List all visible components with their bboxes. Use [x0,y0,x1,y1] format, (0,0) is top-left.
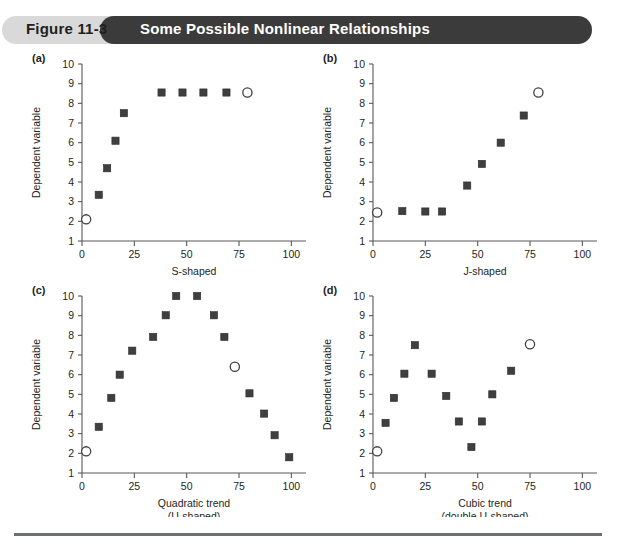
data-point-square [286,454,293,461]
y-tick-label: 1 [359,235,365,247]
data-point-square [200,89,207,96]
data-point-square [520,112,527,119]
y-tick-label: 4 [359,408,365,420]
data-point-square [428,370,435,377]
x-axis-title-line2: (U-shaped) [168,510,221,517]
data-point-square [95,191,102,198]
y-axis-title: Dependent variable [321,339,333,430]
x-tick-label: 50 [181,248,193,260]
data-point-square [401,370,408,377]
axis-lines [373,296,597,473]
y-tick-label: 2 [359,447,365,459]
y-axis-title: Dependent variable [30,107,42,198]
x-tick-label: 0 [79,248,85,260]
y-tick-label: 5 [359,156,365,168]
x-tick-label: 75 [524,480,536,492]
x-tick-label: 25 [128,480,140,492]
data-point-circle [373,447,382,456]
y-tick-label: 7 [359,117,365,129]
panel-b: (b) 123456789100255075100Dependent varia… [305,50,605,285]
x-tick-label: 50 [472,248,484,260]
data-point-square [223,89,230,96]
y-tick-label: 4 [68,176,74,188]
data-point-square [221,333,228,340]
y-tick-label: 9 [68,77,74,89]
x-tick-label: 0 [370,248,376,260]
x-tick-label: 100 [283,480,301,492]
y-tick-label: 6 [359,136,365,148]
data-point-square [261,410,268,417]
x-tick-label: 100 [574,248,592,260]
data-point-square [468,443,475,450]
panel-c: (c) 123456789100255075100Dependent varia… [14,282,314,517]
x-tick-label: 100 [574,480,592,492]
data-point-square [179,89,186,96]
data-point-square [108,394,115,401]
x-tick-label: 100 [283,248,301,260]
y-tick-label: 9 [68,309,74,321]
x-tick-label: 25 [128,248,140,260]
panel-grid: (a) 123456789100255075100Dependent varia… [0,50,620,520]
data-point-square [129,347,136,354]
y-tick-label: 8 [68,329,74,341]
x-axis-title-line2: (double U-shaped) [442,510,529,517]
scatter-plot-c: 123456789100255075100Dependent variableQ… [14,282,314,517]
data-point-square [497,139,504,146]
y-axis-title: Dependent variable [30,339,42,430]
y-axis-title: Dependent variable [321,107,333,198]
y-tick-label: 1 [68,467,74,479]
data-point-square [390,394,397,401]
y-tick-label: 9 [359,77,365,89]
x-axis-title: J-shaped [463,265,506,277]
footer-divider [14,533,602,536]
y-tick-label: 10 [353,290,365,302]
data-point-square [399,208,406,215]
data-point-square [112,137,119,144]
y-tick-label: 7 [68,349,74,361]
figure-title-label: Some Possible Nonlinear Relationships [140,20,430,37]
data-point-circle [243,88,252,97]
data-point-square [382,419,389,426]
data-point-square [210,312,217,319]
data-point-square [438,208,445,215]
data-point-square [150,333,157,340]
data-point-square [271,432,278,439]
data-point-square [443,392,450,399]
data-point-square [116,371,123,378]
x-tick-label: 75 [233,480,245,492]
data-point-square [508,367,515,374]
data-point-square [422,208,429,215]
x-tick-label: 0 [79,480,85,492]
x-tick-label: 25 [419,480,431,492]
y-tick-label: 7 [359,349,365,361]
x-axis-title: S-shaped [172,265,217,277]
data-point-circle [82,447,91,456]
y-tick-label: 10 [62,290,74,302]
data-point-square [95,423,102,430]
data-point-square [478,160,485,167]
data-point-square [246,390,253,397]
x-tick-label: 50 [472,480,484,492]
x-tick-label: 0 [370,480,376,492]
figure-number-label: Figure 11-3 [26,20,107,37]
data-point-square [455,418,462,425]
data-point-square [478,418,485,425]
x-tick-label: 50 [181,480,193,492]
x-tick-label: 75 [233,248,245,260]
data-point-square [162,312,169,319]
scatter-plot-a: 123456789100255075100Dependent variableS… [14,50,314,285]
figure-header: Figure 11-3 Some Possible Nonlinear Rela… [0,16,620,44]
y-tick-label: 6 [68,368,74,380]
y-tick-label: 7 [68,117,74,129]
data-point-square [173,292,180,299]
y-tick-label: 6 [68,136,74,148]
x-axis-title: Cubic trend [458,497,512,509]
y-tick-label: 10 [62,58,74,70]
y-tick-label: 4 [359,176,365,188]
y-tick-label: 4 [68,408,74,420]
y-tick-label: 1 [68,235,74,247]
y-tick-label: 8 [359,329,365,341]
data-point-square [158,89,165,96]
data-point-square [194,292,201,299]
y-tick-label: 5 [68,388,74,400]
